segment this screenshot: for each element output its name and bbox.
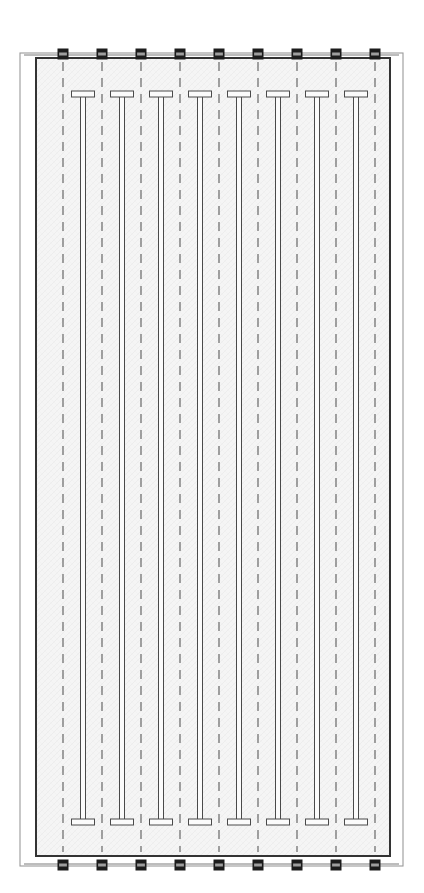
support-marker-top-8[interactable]	[331, 49, 342, 60]
beam-head-bottom-3	[150, 819, 173, 825]
support-marker-bottom-1[interactable]	[58, 860, 69, 871]
beam-stem-1	[81, 96, 86, 820]
slab-outline-rectangle	[36, 58, 390, 856]
support-marker-bottom-9[interactable]	[370, 860, 381, 871]
beam-stem-7	[315, 96, 320, 820]
marker-band-top-5	[215, 53, 223, 56]
beam-head-bottom-7	[306, 819, 329, 825]
support-marker-bottom-5[interactable]	[214, 860, 225, 871]
beam-head-bottom-1	[72, 819, 95, 825]
beam-head-top-3	[150, 91, 173, 97]
support-marker-top-6[interactable]	[253, 49, 264, 60]
support-marker-top-1[interactable]	[58, 49, 69, 60]
marker-band-bottom-9	[371, 864, 379, 867]
beam-stem-6	[276, 96, 281, 820]
marker-band-bottom-6	[254, 864, 262, 867]
support-marker-top-3[interactable]	[136, 49, 147, 60]
marker-band-bottom-4	[176, 864, 184, 867]
beam-head-top-4	[189, 91, 212, 97]
marker-band-bottom-2	[98, 864, 106, 867]
support-marker-bottom-7[interactable]	[292, 860, 303, 871]
beam-head-bottom-4	[189, 819, 212, 825]
beam-stem-4	[198, 96, 203, 820]
beam-head-top-8	[345, 91, 368, 97]
marker-band-top-6	[254, 53, 262, 56]
drawing-sheet	[0, 0, 424, 893]
marker-band-top-3	[137, 53, 145, 56]
support-marker-top-2[interactable]	[97, 49, 108, 60]
support-marker-top-9[interactable]	[370, 49, 381, 60]
beam-head-bottom-2	[111, 819, 134, 825]
support-marker-top-4[interactable]	[175, 49, 186, 60]
beam-stem-5	[237, 96, 242, 820]
marker-band-bottom-1	[59, 864, 67, 867]
marker-band-top-7	[293, 53, 301, 56]
beam-head-top-5	[228, 91, 251, 97]
marker-band-bottom-7	[293, 864, 301, 867]
beam-head-top-2	[111, 91, 134, 97]
beam-stem-2	[120, 96, 125, 820]
beam-head-top-7	[306, 91, 329, 97]
beam-head-top-1	[72, 91, 95, 97]
marker-band-top-2	[98, 53, 106, 56]
marker-band-top-4	[176, 53, 184, 56]
beam-stem-3	[159, 96, 164, 820]
marker-band-top-1	[59, 53, 67, 56]
support-marker-bottom-8[interactable]	[331, 860, 342, 871]
support-marker-top-7[interactable]	[292, 49, 303, 60]
support-marker-bottom-2[interactable]	[97, 860, 108, 871]
marker-band-bottom-8	[332, 864, 340, 867]
beam-head-bottom-6	[267, 819, 290, 825]
marker-band-top-8	[332, 53, 340, 56]
support-marker-bottom-4[interactable]	[175, 860, 186, 871]
beam-head-bottom-5	[228, 819, 251, 825]
beam-head-top-6	[267, 91, 290, 97]
support-marker-bottom-6[interactable]	[253, 860, 264, 871]
beam-head-bottom-8	[345, 819, 368, 825]
support-marker-top-5[interactable]	[214, 49, 225, 60]
marker-band-bottom-5	[215, 864, 223, 867]
marker-band-bottom-3	[137, 864, 145, 867]
beam-stem-8	[354, 96, 359, 820]
marker-band-top-9	[371, 53, 379, 56]
structural-plan-svg	[0, 0, 424, 893]
support-marker-bottom-3[interactable]	[136, 860, 147, 871]
